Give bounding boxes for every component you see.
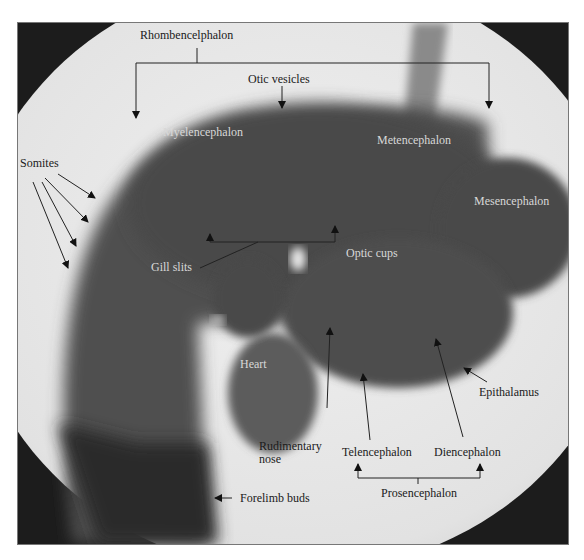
label-forelimb-buds: Forelimb buds (240, 492, 310, 505)
label-rhombencephalon: Rhombencelphalon (140, 29, 233, 42)
label-heart: Heart (240, 358, 267, 371)
label-metencephalon: Metencephalon (377, 134, 451, 147)
label-epithalamus: Epithalamus (479, 386, 539, 399)
label-telencephalon: Telencephalon (342, 446, 412, 459)
embryo-micrograph (18, 23, 568, 544)
label-otic-vesicles: Otic vesicles (248, 73, 310, 86)
label-myelencephalon: Myelencephalon (163, 126, 243, 139)
label-mesencephalon: Mesencephalon (474, 195, 549, 208)
micrograph-frame (17, 22, 569, 545)
label-optic-cups: Optic cups (346, 247, 398, 260)
label-prosencephalon: Prosencephalon (381, 487, 457, 500)
label-diencephalon: Diencephalon (434, 446, 501, 459)
label-somites: Somites (20, 157, 59, 170)
label-gill-slits: Gill slits (151, 261, 192, 274)
label-rudimentary-nose-line2: nose (259, 453, 281, 466)
